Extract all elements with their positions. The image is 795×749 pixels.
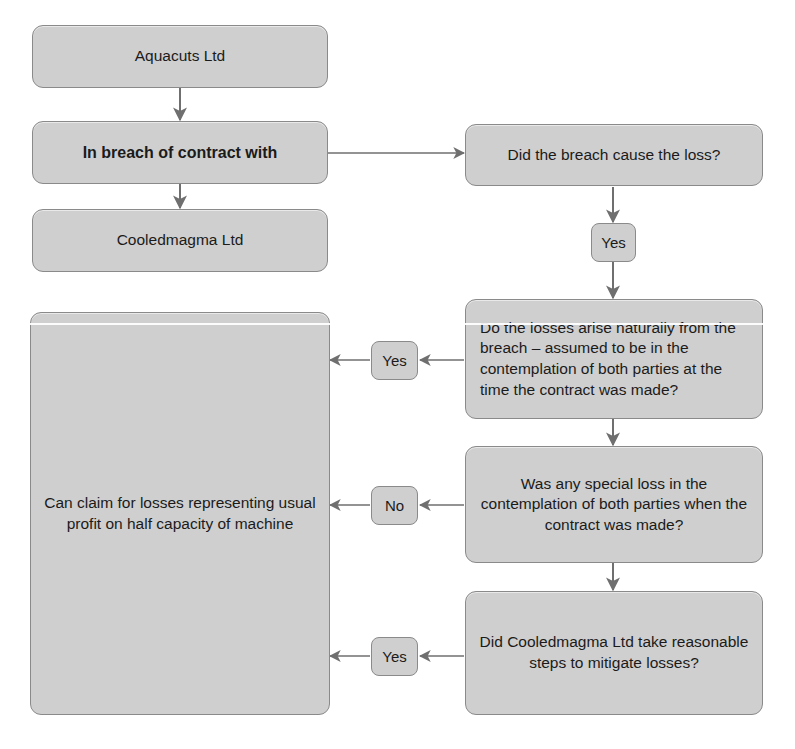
node-mitigation-label: Did Cooledmagma Ltd take reasonable step…	[466, 632, 762, 673]
edge-label-yes-causation-text: Yes	[601, 234, 625, 251]
node-defendant-label: Cooledmagma Ltd	[33, 230, 327, 251]
node-special-loss-label: Was any special loss in the contemplatio…	[466, 474, 762, 536]
node-breach-label: In breach of contract with	[33, 142, 327, 163]
node-breach[interactable]: In breach of contract with	[32, 121, 328, 184]
node-natural-loss[interactable]: Do the losses arise naturally from the b…	[465, 299, 763, 419]
flowchart-canvas: Aquacuts Ltd In breach of contract with …	[0, 0, 795, 749]
node-claimant[interactable]: Aquacuts Ltd	[32, 25, 328, 88]
node-causation[interactable]: Did the breach cause the loss?	[465, 124, 763, 186]
node-causation-label: Did the breach cause the loss?	[466, 145, 762, 166]
node-defendant[interactable]: Cooledmagma Ltd	[32, 209, 328, 272]
edge-label-yes-natural-text: Yes	[382, 352, 406, 369]
node-claimant-label: Aquacuts Ltd	[33, 46, 327, 67]
node-mitigation[interactable]: Did Cooledmagma Ltd take reasonable step…	[465, 591, 763, 715]
edge-label-yes-causation[interactable]: Yes	[591, 223, 636, 262]
scan-line-artifact	[0, 323, 795, 325]
edge-label-yes-natural[interactable]: Yes	[371, 341, 418, 380]
node-special-loss[interactable]: Was any special loss in the contemplatio…	[465, 446, 763, 563]
edge-label-yes-mitigation-text: Yes	[382, 648, 406, 665]
edge-label-no-special[interactable]: No	[371, 486, 418, 525]
edge-label-no-special-text: No	[385, 497, 404, 514]
node-outcome[interactable]: Can claim for losses representing usual …	[30, 312, 330, 715]
node-natural-loss-label: Do the losses arise naturally from the b…	[466, 318, 762, 400]
edge-label-yes-mitigation[interactable]: Yes	[371, 637, 418, 676]
node-outcome-label: Can claim for losses representing usual …	[31, 493, 329, 534]
